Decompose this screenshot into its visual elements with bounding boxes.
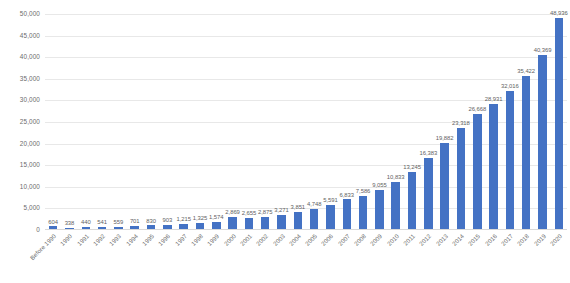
x-axis-tick-label: 2008 bbox=[353, 233, 367, 247]
plot-area: 6043384405415597018309031,2151,3251,5742… bbox=[45, 14, 567, 230]
y-axis-tick-label: 5,000 bbox=[24, 205, 41, 211]
bar[interactable]: 28,931 bbox=[489, 104, 497, 229]
bar[interactable]: 48,936 bbox=[555, 18, 563, 229]
bar-slot: 338 bbox=[61, 14, 77, 229]
bar[interactable]: 541 bbox=[98, 227, 106, 229]
bar[interactable]: 40,369 bbox=[538, 55, 546, 229]
bar-slot: 6,833 bbox=[339, 14, 355, 229]
bar[interactable]: 1,574 bbox=[212, 222, 220, 229]
bar-slot: 19,882 bbox=[437, 14, 453, 229]
y-axis: 05,00010,00015,00020,00025,00030,00035,0… bbox=[0, 14, 44, 230]
x-axis-slot: 1994 bbox=[127, 231, 143, 281]
bar-value-label: 2,875 bbox=[258, 210, 273, 216]
bar-slot: 2,655 bbox=[241, 14, 257, 229]
bar[interactable]: 19,882 bbox=[440, 143, 448, 229]
bar-slot: 1,574 bbox=[208, 14, 224, 229]
bar-slot: 604 bbox=[45, 14, 61, 229]
bar[interactable]: 23,318 bbox=[457, 128, 465, 229]
bar[interactable]: 2,655 bbox=[245, 218, 253, 229]
bar[interactable]: 338 bbox=[65, 228, 73, 230]
x-axis-tick-label: 1998 bbox=[190, 233, 204, 247]
bar-value-label: 19,882 bbox=[436, 136, 454, 142]
y-axis-tick-label: 30,000 bbox=[20, 97, 40, 103]
x-axis-tick-label: 2019 bbox=[533, 233, 547, 247]
bar[interactable]: 1,215 bbox=[179, 224, 187, 229]
x-axis-tick-label: 2020 bbox=[549, 233, 563, 247]
bar-slot: 2,875 bbox=[257, 14, 273, 229]
bar-slot: 903 bbox=[159, 14, 175, 229]
x-axis-tick-label: 1995 bbox=[141, 233, 155, 247]
bar[interactable]: 5,591 bbox=[326, 205, 334, 229]
bar-series: 6043384405415597018309031,2151,3251,5742… bbox=[45, 14, 567, 229]
bar[interactable]: 7,586 bbox=[359, 196, 367, 229]
x-axis-tick-label: 2002 bbox=[255, 233, 269, 247]
x-axis-slot: 1995 bbox=[143, 231, 159, 281]
bar-value-label: 701 bbox=[130, 219, 140, 225]
bar-value-label: 7,586 bbox=[356, 189, 371, 195]
bar[interactable]: 4,748 bbox=[310, 209, 318, 230]
bar[interactable]: 2,875 bbox=[261, 217, 269, 229]
bar[interactable]: 559 bbox=[114, 227, 122, 229]
x-axis-tick-label: 2011 bbox=[403, 233, 417, 247]
x-axis-tick-label: 2010 bbox=[386, 233, 400, 247]
bar[interactable]: 35,422 bbox=[522, 76, 530, 229]
bar[interactable]: 32,016 bbox=[506, 91, 514, 229]
x-axis-slot: 2013 bbox=[437, 231, 453, 281]
bar-value-label: 6,833 bbox=[340, 193, 355, 199]
x-axis-slot: 2015 bbox=[469, 231, 485, 281]
x-axis-slot: 1993 bbox=[110, 231, 126, 281]
bar[interactable]: 830 bbox=[147, 225, 155, 229]
bar-value-label: 4,748 bbox=[307, 202, 322, 208]
x-axis-slot: 2001 bbox=[241, 231, 257, 281]
bar[interactable]: 6,833 bbox=[343, 199, 351, 229]
x-axis-slot: 2008 bbox=[355, 231, 371, 281]
bar[interactable]: 3,271 bbox=[277, 215, 285, 229]
bar[interactable]: 10,833 bbox=[391, 182, 399, 229]
bar[interactable]: 3,851 bbox=[294, 212, 302, 229]
bar[interactable]: 440 bbox=[82, 227, 90, 229]
x-axis-slot: 2017 bbox=[502, 231, 518, 281]
x-axis-tick-label: 1994 bbox=[125, 233, 139, 247]
x-axis-tick-label: 2012 bbox=[419, 233, 433, 247]
bar-value-label: 35,422 bbox=[517, 69, 535, 75]
bar-chart: 05,00010,00015,00020,00025,00030,00035,0… bbox=[0, 0, 570, 283]
bar-value-label: 541 bbox=[97, 220, 107, 226]
bar-value-label: 1,574 bbox=[209, 215, 224, 221]
x-axis-tick-label: 1996 bbox=[158, 233, 172, 247]
bar-value-label: 2,869 bbox=[225, 210, 240, 216]
x-axis-tick-label: 2014 bbox=[451, 233, 465, 247]
x-axis-slot: 2002 bbox=[257, 231, 273, 281]
x-axis-tick-label: 2017 bbox=[500, 233, 514, 247]
bar[interactable]: 604 bbox=[49, 226, 57, 229]
x-axis-tick-label: 1997 bbox=[174, 233, 188, 247]
x-axis-tick-label: 2006 bbox=[321, 233, 335, 247]
bar[interactable]: 701 bbox=[130, 226, 138, 229]
x-axis-tick-label: 1993 bbox=[109, 233, 123, 247]
y-axis-tick-label: 35,000 bbox=[20, 76, 40, 82]
bar-value-label: 9,055 bbox=[372, 183, 387, 189]
bar[interactable]: 9,055 bbox=[375, 190, 383, 229]
x-axis-tick-label: 1991 bbox=[76, 233, 90, 247]
bar[interactable]: 903 bbox=[163, 225, 171, 229]
bar-value-label: 23,318 bbox=[452, 121, 470, 127]
bar-slot: 5,591 bbox=[322, 14, 338, 229]
bar[interactable]: 13,245 bbox=[408, 172, 416, 229]
bar-value-label: 1,325 bbox=[193, 216, 208, 222]
bar-slot: 2,869 bbox=[224, 14, 240, 229]
x-axis-slot: 1998 bbox=[192, 231, 208, 281]
bar-slot: 1,215 bbox=[176, 14, 192, 229]
bar[interactable]: 2,869 bbox=[228, 217, 236, 229]
x-axis-tick-label: 2001 bbox=[239, 233, 253, 247]
x-axis-slot: 2009 bbox=[371, 231, 387, 281]
bar-value-label: 903 bbox=[163, 218, 173, 224]
bar[interactable]: 1,325 bbox=[196, 223, 204, 229]
bar-value-label: 440 bbox=[81, 220, 91, 226]
x-axis-tick-label: 2015 bbox=[468, 233, 482, 247]
bar-slot: 9,055 bbox=[371, 14, 387, 229]
x-axis-tick-label: 2007 bbox=[337, 233, 351, 247]
x-axis-tick-label: 2013 bbox=[435, 233, 449, 247]
bar[interactable]: 26,668 bbox=[473, 114, 481, 229]
x-axis-tick-label: 2016 bbox=[484, 233, 498, 247]
bar[interactable]: 16,383 bbox=[424, 158, 432, 229]
x-axis-slot: 2006 bbox=[322, 231, 338, 281]
